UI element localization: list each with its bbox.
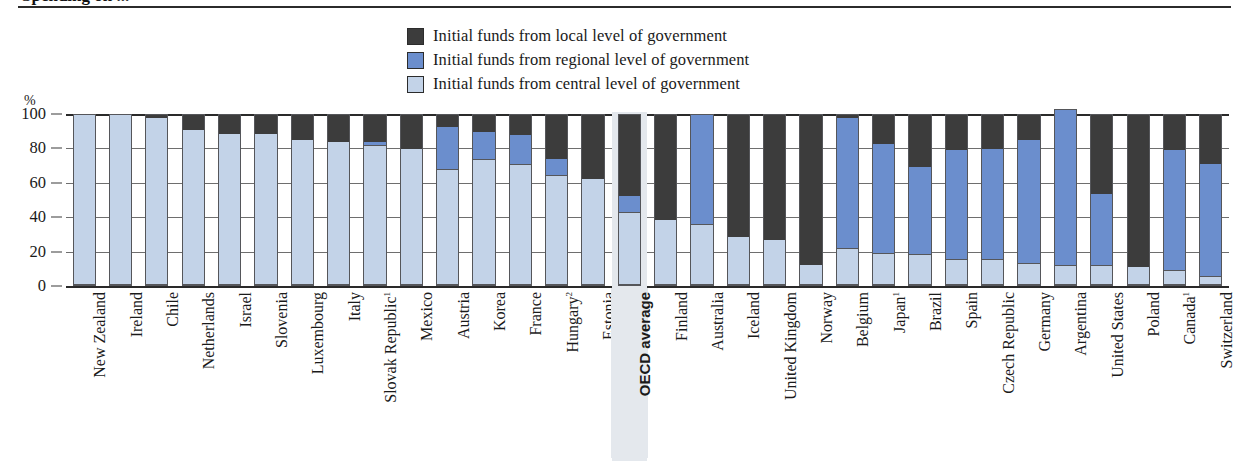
bar-segment-local [1128, 115, 1149, 267]
legend-item-local: Initial funds from local level of govern… [407, 26, 749, 47]
stacked-bar[interactable] [109, 114, 132, 286]
bar-slot [1084, 114, 1120, 286]
bar-segment-central [909, 255, 930, 285]
stacked-bar[interactable] [727, 114, 750, 286]
x-label-slot: Luxembourg [284, 288, 320, 458]
bar-segment-local [946, 115, 967, 150]
x-label-slot: United Kingdom [757, 288, 793, 458]
x-label-slot: OECD average [611, 288, 647, 458]
bar-segment-local [401, 115, 422, 149]
bar-segment-central [728, 237, 749, 285]
bar-slot [1011, 114, 1047, 286]
x-label-slot: Mexico [393, 288, 429, 458]
stacked-bar[interactable] [1090, 114, 1113, 286]
x-label-slot: Spain [938, 288, 974, 458]
stacked-bar[interactable] [945, 114, 968, 286]
stacked-bar[interactable] [472, 114, 495, 286]
bar-segment-regional [873, 144, 894, 254]
y-tick-label-20: 20 [30, 242, 47, 262]
stacked-bar[interactable] [291, 114, 314, 286]
stacked-bar[interactable] [545, 114, 568, 286]
stacked-bar[interactable] [690, 114, 713, 286]
bar-segment-central [1164, 271, 1185, 285]
x-label-slot: Brazil [902, 288, 938, 458]
bar-segment-central [510, 165, 531, 285]
bar-segment-regional [510, 135, 531, 165]
bar-segment-local [546, 115, 567, 159]
bar-segment-central [401, 149, 422, 285]
bar-slot [175, 114, 211, 286]
bar-segment-local [982, 115, 1003, 149]
stacked-bar[interactable] [182, 114, 205, 286]
bar-slot [429, 114, 465, 286]
bar-segment-regional [837, 118, 858, 248]
stacked-bar[interactable] [436, 114, 459, 286]
footnote-marker: 2 [564, 292, 574, 297]
x-axis-category-labels: New ZealandIrelandChileNetherlandsIsrael… [66, 288, 1229, 458]
stacked-bar[interactable] [872, 114, 895, 286]
bar-segment-central [219, 134, 240, 285]
stacked-bar[interactable] [145, 114, 168, 286]
bar-slot [1120, 114, 1156, 286]
stacked-bar[interactable] [509, 114, 532, 286]
stacked-bar[interactable] [1199, 114, 1222, 286]
bar-segment-regional [691, 115, 712, 225]
bar-segment-central [837, 249, 858, 285]
bar-slot [684, 114, 720, 286]
bar-slot [793, 114, 829, 286]
bar-segment-central [982, 260, 1003, 285]
bar-slot [902, 114, 938, 286]
stacked-bar[interactable] [618, 114, 641, 286]
y-tick-mark-60 [51, 182, 62, 183]
y-tick-label-0: 0 [38, 276, 46, 296]
bar-segment-central [764, 240, 785, 285]
stacked-bar[interactable] [1054, 109, 1077, 286]
stacked-bar[interactable] [327, 114, 350, 286]
bar-slot [1156, 114, 1192, 286]
bar-segment-central [183, 130, 204, 285]
y-tick-label-40: 40 [30, 207, 47, 227]
footnote-marker: 1 [891, 292, 901, 297]
stacked-bar[interactable] [73, 114, 96, 286]
bar-segment-local [292, 115, 313, 140]
legend-label-local: Initial funds from local level of govern… [433, 28, 727, 45]
x-label-slot: Japan1 [866, 288, 902, 458]
stacked-bar[interactable] [799, 114, 822, 286]
x-label-slot: Austria [429, 288, 465, 458]
bar-segment-local [473, 115, 494, 132]
y-tick-label-60: 60 [30, 173, 47, 193]
chart-legend: Initial funds from local level of govern… [407, 26, 749, 95]
bar-segment-central [1200, 277, 1221, 285]
bar-segment-regional [1018, 140, 1039, 264]
bar-segment-central [255, 134, 276, 285]
stacked-bar[interactable] [654, 114, 677, 286]
x-label-slot: Italy [320, 288, 356, 458]
legend-item-central: Initial funds from central level of gove… [407, 74, 749, 95]
bar-segment-local [219, 115, 240, 134]
stacked-bar[interactable] [363, 114, 386, 286]
bar-segment-local [655, 115, 676, 220]
bar-segment-local [1200, 115, 1221, 164]
stacked-bar[interactable] [1017, 114, 1040, 286]
stacked-bar[interactable] [908, 114, 931, 286]
stacked-bar[interactable] [981, 114, 1004, 286]
bar-segment-regional [982, 149, 1003, 261]
bar-slot [284, 114, 320, 286]
stacked-bar[interactable] [400, 114, 423, 286]
footnote-marker: 1 [382, 292, 392, 297]
bar-segment-central [364, 146, 385, 285]
x-label-slot: United States [1084, 288, 1120, 458]
stacked-bar[interactable] [581, 114, 604, 286]
stacked-bar[interactable] [1163, 114, 1186, 286]
stacked-bar[interactable] [218, 114, 241, 286]
stacked-bar[interactable] [836, 114, 859, 286]
stacked-bar[interactable] [1127, 114, 1150, 286]
footnote-marker: 1 [1182, 292, 1192, 297]
stacked-bar[interactable] [254, 114, 277, 286]
stacked-bar[interactable] [763, 114, 786, 286]
y-tick-mark-20 [51, 251, 62, 252]
bar-slot [938, 114, 974, 286]
bar-slot [611, 114, 647, 286]
bar-slot [1047, 114, 1083, 286]
y-tick-mark-40 [51, 217, 62, 218]
